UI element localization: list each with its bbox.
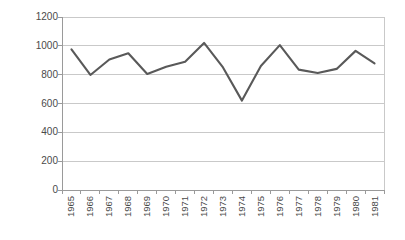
x-tick-label: 1967 [103,196,115,236]
x-tick-label: 1971 [179,196,191,236]
x-tick-label: 1965 [65,196,77,236]
x-tick-label: 1972 [198,196,210,236]
x-tick-label: 1978 [312,196,324,236]
x-tick-label: 1966 [84,196,96,236]
x-tick-label: 1970 [160,196,172,236]
x-axis-tick-labels: 1965196619671968196919701971197219731974… [0,0,405,240]
x-tick-label: 1980 [350,196,362,236]
x-tick-label: 1979 [331,196,343,236]
x-tick-label: 1976 [274,196,286,236]
x-tick-label: 1973 [217,196,229,236]
x-tick-label: 1968 [122,196,134,236]
x-tick-label: 1974 [236,196,248,236]
chart-container: 다우존스 산업평균지수 020040060080010001200 196519… [0,0,405,240]
x-tick-label: 1981 [369,196,381,236]
x-tick-label: 1969 [141,196,153,236]
x-tick-label: 1977 [293,196,305,236]
x-tick-label: 1975 [255,196,267,236]
